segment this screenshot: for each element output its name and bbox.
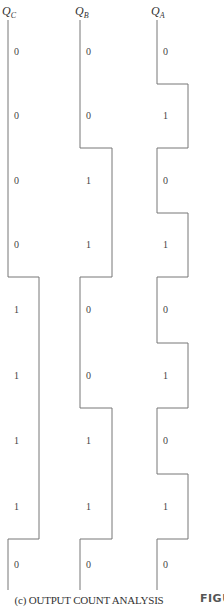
signal-subscript: C [11, 11, 16, 20]
figure-label: FIGU [200, 592, 224, 605]
bit-value-qa-2: 0 [163, 175, 168, 186]
bit-value-qa-5: 1 [163, 370, 168, 381]
waveforms [0, 0, 224, 608]
signal-title-qc: QC [2, 4, 16, 20]
signal-subscript: B [84, 11, 89, 20]
bit-value-qc-5: 1 [14, 370, 19, 381]
waveform-qc [8, 20, 39, 590]
bit-value-qc-7: 1 [14, 501, 19, 512]
bit-value-qb-6: 1 [86, 435, 91, 446]
waveform-qb [80, 20, 112, 590]
waveform-qa [157, 20, 188, 590]
bit-value-qb-2: 1 [86, 175, 91, 186]
bit-value-qb-8: 0 [86, 559, 91, 570]
bit-value-qa-7: 1 [163, 501, 168, 512]
count-timing-diagram: QC000011110QB001100110QA010101010 [0, 0, 224, 608]
bit-value-qa-1: 1 [163, 110, 168, 121]
bit-value-qa-0: 0 [163, 46, 168, 57]
bit-value-qc-6: 1 [14, 435, 19, 446]
signal-subscript: A [160, 11, 165, 20]
bit-value-qb-5: 0 [86, 370, 91, 381]
bit-value-qa-8: 0 [163, 559, 168, 570]
bit-value-qa-6: 0 [163, 435, 168, 446]
signal-name: Q [75, 4, 84, 18]
signal-title-qa: QA [151, 4, 165, 20]
bit-value-qc-8: 0 [14, 559, 19, 570]
bit-value-qb-4: 0 [86, 304, 91, 315]
bit-value-qb-7: 1 [86, 501, 91, 512]
figure-caption: (c) OUTPUT COUNT ANALYSIS [0, 594, 178, 606]
bit-value-qc-4: 1 [14, 304, 19, 315]
bit-value-qc-0: 0 [14, 46, 19, 57]
bit-value-qa-3: 1 [163, 239, 168, 250]
bit-value-qc-2: 0 [14, 175, 19, 186]
signal-name: Q [2, 4, 11, 18]
bit-value-qb-1: 0 [86, 110, 91, 121]
bit-value-qc-1: 0 [14, 110, 19, 121]
bit-value-qa-4: 0 [163, 304, 168, 315]
bit-value-qb-0: 0 [86, 46, 91, 57]
bit-value-qc-3: 0 [14, 239, 19, 250]
bit-value-qb-3: 1 [86, 239, 91, 250]
signal-name: Q [151, 4, 160, 18]
signal-title-qb: QB [75, 4, 89, 20]
